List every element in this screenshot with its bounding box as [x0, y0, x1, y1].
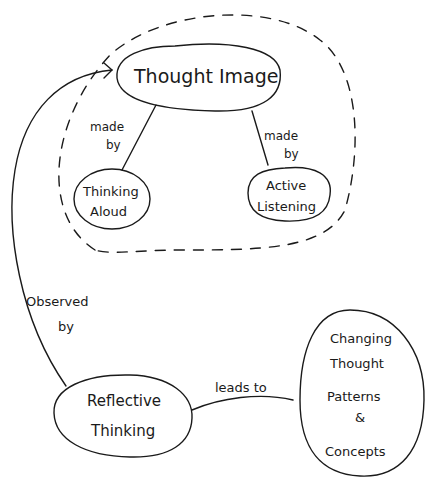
- edge-line: [122, 105, 156, 170]
- edge-label-line1: made: [90, 120, 124, 134]
- node-reflective-thinking-line2: Thinking: [90, 422, 155, 440]
- edge-label-line2: by: [106, 138, 121, 152]
- node-changing-patterns-line1: Changing: [330, 331, 392, 346]
- node-reflective-thinking-shape: [54, 375, 192, 457]
- node-thought-image[interactable]: Thought Image: [117, 44, 280, 111]
- node-active-listening-line2: Listening: [257, 199, 316, 214]
- node-reflective-thinking-line1: Reflective: [87, 392, 161, 410]
- edge-observed-by: Observed by: [12, 63, 112, 386]
- node-active-listening-line1: Active: [266, 178, 306, 193]
- edge-curve: [192, 396, 293, 410]
- edge-label: leads to: [215, 380, 267, 395]
- node-thinking-aloud-line2: Aloud: [90, 204, 127, 219]
- node-changing-patterns-line3: Patterns: [327, 389, 381, 404]
- edge-label-line2: by: [58, 319, 74, 334]
- edge-label-line2: by: [284, 147, 299, 161]
- node-changing-patterns-line5: Concepts: [325, 444, 386, 459]
- node-active-listening[interactable]: Active Listening: [248, 167, 330, 221]
- node-changing-patterns-line2: Thought: [329, 356, 384, 371]
- node-changing-patterns-line4: &: [355, 410, 365, 425]
- node-thought-image-label: Thought Image: [133, 65, 278, 87]
- node-thinking-aloud-shape: [74, 169, 150, 229]
- edge-curve: [12, 70, 112, 386]
- edge-label-line1: made: [264, 129, 298, 143]
- concept-map-canvas: Thought Image made by made by Thinking A…: [0, 0, 434, 484]
- node-thinking-aloud-line1: Thinking: [82, 184, 139, 199]
- edge-made-by-right: made by: [252, 111, 299, 165]
- node-thinking-aloud[interactable]: Thinking Aloud: [74, 169, 150, 229]
- edge-leads-to: leads to: [192, 380, 293, 410]
- node-changing-thought-patterns[interactable]: Changing Thought Patterns & Concepts: [300, 310, 424, 476]
- node-reflective-thinking[interactable]: Reflective Thinking: [54, 375, 192, 457]
- edge-made-by-left: made by: [90, 105, 156, 170]
- edge-label-line1: Observed: [26, 294, 89, 309]
